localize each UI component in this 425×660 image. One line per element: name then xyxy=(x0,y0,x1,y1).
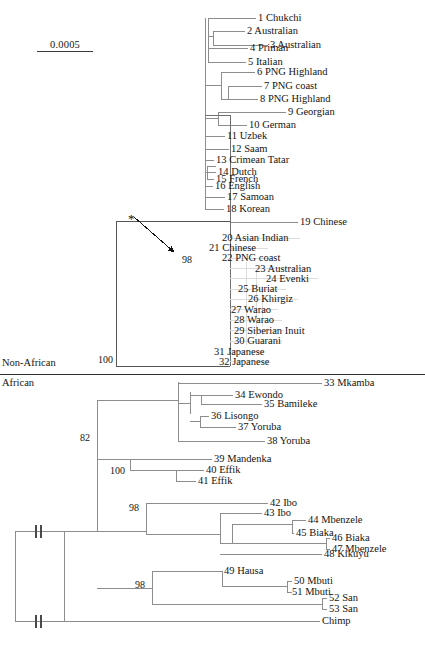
group-label-non-african: Non-African xyxy=(2,358,56,369)
leaf-label-52: 52 San xyxy=(329,593,358,604)
leaf-label-6: 6 PNG Highland xyxy=(257,67,328,78)
leaf-label-36: 36 Lisongo xyxy=(211,411,259,422)
bootstrap-98-hausa: 98 xyxy=(135,580,145,590)
leaf-label-46: 46 Biaka xyxy=(332,533,370,544)
leaf-label-chimp: Chimp xyxy=(322,616,351,627)
leaf-label-53: 53 San xyxy=(329,604,358,615)
leaf-label-43: 43 Ibo xyxy=(264,508,291,519)
leaf-label-9: 9 Georgian xyxy=(288,107,335,118)
leaf-label-4: 4 Priman xyxy=(250,43,288,54)
leaf-label-40: 40 Effik xyxy=(206,465,241,476)
leaf-label-28: 28 Warao xyxy=(234,315,274,326)
leaf-label-41: 41 Effik xyxy=(198,476,233,487)
leaf-label-44: 44 Mbenzele xyxy=(308,515,363,526)
leaf-label-26: 26 Khirgiz xyxy=(248,294,293,305)
leaf-label-12: 12 Saam xyxy=(231,144,267,155)
bootstrap-100-mandenka: 100 xyxy=(110,466,125,476)
phylogenetic-tree-figure: 0.0005 * xyxy=(0,0,425,660)
leaf-label-48: 48 Kikuyu xyxy=(324,549,369,560)
leaf-label-35: 35 Bamileke xyxy=(264,399,317,410)
leaf-label-13: 13 Crimean Tatar xyxy=(216,155,289,166)
tree-branches xyxy=(0,0,425,660)
leaf-label-18: 18 Korean xyxy=(226,204,270,215)
leaf-label-39: 39 Mandenka xyxy=(214,454,271,465)
leaf-label-2: 2 Australian xyxy=(247,26,298,37)
leaf-label-37: 37 Yoruba xyxy=(238,422,281,433)
leaf-label-10: 10 German xyxy=(249,120,296,131)
leaf-label-1: 1 Chukchi xyxy=(258,13,301,24)
bootstrap-100-root-split: 100 xyxy=(98,355,113,365)
leaf-label-50: 50 Mbuti xyxy=(294,576,333,587)
leaf-label-30: 30 Guarani xyxy=(234,336,281,347)
bootstrap-98-ibo: 98 xyxy=(129,503,139,513)
leaf-label-38: 38 Yoruba xyxy=(267,436,310,447)
leaf-label-8: 8 PNG Highland xyxy=(260,94,331,105)
leaf-label-17: 17 Samoan xyxy=(227,192,274,203)
leaf-label-45: 45 Biaka xyxy=(296,528,334,539)
leaf-label-33: 33 Mkamba xyxy=(324,378,374,389)
leaf-label-51: 51 Mbuti xyxy=(292,587,331,598)
leaf-label-16: 16 English xyxy=(215,181,260,192)
bootstrap-82-african: 82 xyxy=(80,433,90,443)
leaf-label-11: 11 Uzbek xyxy=(227,131,267,142)
group-label-african: African xyxy=(2,378,34,389)
bootstrap-98-nonafrican: 98 xyxy=(182,255,192,265)
leaf-label-19: 19 Chinese xyxy=(300,217,347,228)
leaf-label-32: 32 Japanese xyxy=(219,357,269,368)
leaf-label-7: 7 PNG coast xyxy=(264,81,317,92)
leaf-label-22: 22 PNG coast xyxy=(222,253,280,264)
leaf-label-49: 49 Hausa xyxy=(224,566,263,577)
